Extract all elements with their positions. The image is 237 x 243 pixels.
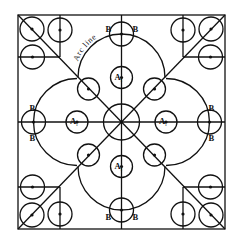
corner-circle-on-horizontal-top-right-center-dot bbox=[209, 55, 212, 58]
b-circle-left-center-dot bbox=[32, 120, 35, 123]
a-subscript-right: 1 bbox=[165, 122, 167, 127]
diagram-structure bbox=[18, 15, 225, 229]
b-circle-right-center-dot bbox=[208, 120, 211, 123]
b-label-bottom-left: B bbox=[106, 212, 112, 222]
b-label-top-left: B bbox=[106, 24, 112, 34]
diagonal-circle-upper-left-center-dot bbox=[87, 87, 90, 90]
arc-line-diagram: A1A1A1A1BBBBBBBBArc line bbox=[0, 0, 237, 243]
corner-circle-diagonal-top-right-center-dot bbox=[209, 27, 212, 30]
corner-circle-diagonal-bottom-right-center-dot bbox=[209, 213, 212, 216]
b-label-right-lower: B bbox=[209, 133, 215, 143]
corner-circle-on-horizontal-top-left-center-dot bbox=[31, 55, 34, 58]
corner-circle-diagonal-top-left-center-dot bbox=[30, 27, 33, 30]
arc-line-label: Arc line bbox=[71, 32, 98, 62]
b-label-right-upper: B bbox=[209, 103, 215, 113]
b-circle-top-center-dot bbox=[120, 32, 123, 35]
diagonal-circle-upper-right-center-dot bbox=[153, 87, 156, 90]
a-subscript-top: 1 bbox=[120, 78, 122, 83]
corner-circle-on-horizontal-bottom-left-center-dot bbox=[31, 185, 34, 188]
corner-circle-on-vertical-top-right-center-dot bbox=[181, 28, 184, 31]
corner-circle-on-vertical-top-left-center-dot bbox=[58, 28, 61, 31]
corner-circle-diagonal-bottom-left-center-dot bbox=[30, 213, 33, 216]
b-circle-bottom-center-dot bbox=[120, 208, 123, 211]
b-label-left-lower: B bbox=[30, 133, 36, 143]
corner-circle-on-vertical-bottom-right-center-dot bbox=[181, 212, 184, 215]
central-circle-center-dot bbox=[120, 120, 123, 123]
b-label-left-upper: B bbox=[30, 103, 36, 113]
corner-circle-on-horizontal-bottom-right-center-dot bbox=[209, 185, 212, 188]
arc-line-label-text: Arc line bbox=[71, 32, 98, 62]
a-subscript-left: 1 bbox=[76, 122, 78, 127]
a-subscript-bottom: 1 bbox=[120, 167, 122, 172]
corner-circle-on-vertical-bottom-left-center-dot bbox=[58, 212, 61, 215]
b-label-top-right: B bbox=[133, 24, 139, 34]
diagonal-circle-lower-left-center-dot bbox=[87, 153, 90, 156]
diagonal-circle-lower-right-center-dot bbox=[153, 153, 156, 156]
b-label-bottom-right: B bbox=[133, 212, 139, 222]
